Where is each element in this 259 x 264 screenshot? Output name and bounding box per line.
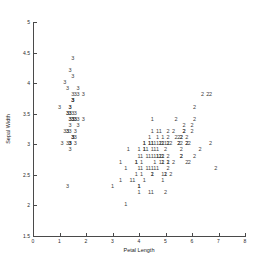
data-point-3: 3 [71,74,74,80]
data-point-2: 2 [180,154,183,160]
data-point-2: 2 [180,135,183,141]
data-point-3: 3 [66,184,69,190]
data-point-3: 3 [77,123,80,129]
data-point-3: 3 [69,68,72,74]
data-point-2: 2 [190,129,193,135]
y-tick-mark [34,22,37,23]
data-point-3: 3 [69,142,72,148]
data-point-2: 2 [185,135,188,141]
data-point-3: 3 [69,148,72,154]
data-point-2: 2 [164,172,167,178]
data-point-3: 3 [74,142,77,148]
x-axis-label: Petal Length [124,247,155,253]
x-tick-label: 6 [191,238,194,244]
data-point-3: 3 [74,111,77,117]
data-point-2: 2 [169,142,172,148]
data-point-2: 2 [151,172,154,178]
data-point-2: 2 [164,148,167,154]
data-point-2: 2 [167,142,170,148]
data-point-3: 3 [69,105,72,111]
data-point-1: 1 [151,190,154,196]
data-point-3: 3 [82,93,85,99]
x-tick-label: 2 [85,238,88,244]
data-point-2: 2 [159,142,162,148]
data-point-2: 2 [209,93,212,99]
data-point-1: 1 [132,178,135,184]
data-point-3: 3 [66,111,69,117]
data-point-2: 2 [185,142,188,148]
data-point-1: 1 [151,129,154,135]
data-point-1: 1 [145,154,148,160]
data-point-2: 2 [161,160,164,166]
y-tick-mark [34,175,37,176]
data-point-3: 3 [69,123,72,129]
data-point-2: 2 [175,135,178,141]
x-tick-label: 4 [138,238,141,244]
data-point-1: 1 [151,148,154,154]
data-point-2: 2 [169,172,172,178]
x-tick-label: 8 [244,238,247,244]
data-point-2: 2 [209,142,212,148]
y-tick-label: 1.5 [23,233,30,239]
data-point-1: 1 [148,142,151,148]
y-tick-mark [34,144,37,145]
data-point-2: 2 [159,154,162,160]
data-point-1: 1 [137,184,140,190]
data-point-1: 1 [137,190,140,196]
x-tick-mark [60,233,61,236]
data-point-1: 1 [140,154,143,160]
data-point-1: 1 [151,117,154,123]
x-tick-mark [245,233,246,236]
data-point-2: 2 [193,105,196,111]
y-tick-label: 2.5 [23,172,30,178]
data-point-2: 2 [167,154,170,160]
x-tick-label: 7 [217,238,220,244]
y-tick-label: 4.5 [23,50,30,56]
data-point-1: 1 [119,160,122,166]
data-point-3: 3 [77,93,80,99]
data-point-2: 2 [198,148,201,154]
scatter-plot-figure: 012345678 1.522.533.544.55 1111111111111… [0,0,259,264]
data-point-3: 3 [74,93,77,99]
data-point-1: 1 [135,172,138,178]
data-point-1: 1 [127,148,130,154]
data-point-2: 2 [193,154,196,160]
x-tick-mark [113,233,114,236]
data-point-1: 1 [145,166,148,172]
x-tick-mark [166,233,167,236]
data-point-2: 2 [175,117,178,123]
y-tick-label: 3 [27,141,30,147]
y-tick-label: 2 [27,202,30,208]
data-point-3: 3 [61,142,64,148]
x-axis-line [33,236,246,237]
data-point-2: 2 [188,142,191,148]
data-point-3: 3 [71,135,74,141]
data-point-3: 3 [71,56,74,62]
data-point-1: 1 [124,166,127,172]
x-tick-mark [86,233,87,236]
data-point-2: 2 [164,190,167,196]
y-tick-label: 4 [27,80,30,86]
data-point-3: 3 [74,117,77,123]
data-point-3: 3 [69,129,72,135]
data-point-2: 2 [180,142,183,148]
data-point-1: 1 [143,178,146,184]
x-tick-mark [219,233,220,236]
data-point-3: 3 [82,117,85,123]
y-tick-mark [34,53,37,54]
data-point-2: 2 [193,117,196,123]
data-point-3: 3 [71,117,74,123]
y-tick-mark [34,205,37,206]
data-point-1: 1 [148,190,151,196]
data-point-1: 1 [148,154,151,160]
data-point-3: 3 [71,99,74,105]
x-tick-mark [139,233,140,236]
y-tick-label: 5 [27,19,30,25]
data-point-1: 1 [137,148,140,154]
x-tick-mark [192,233,193,236]
data-point-1: 1 [140,166,143,172]
data-point-3: 3 [74,135,77,141]
data-point-1: 1 [130,178,133,184]
x-tick-label: 0 [32,238,35,244]
data-point-1: 1 [159,129,162,135]
